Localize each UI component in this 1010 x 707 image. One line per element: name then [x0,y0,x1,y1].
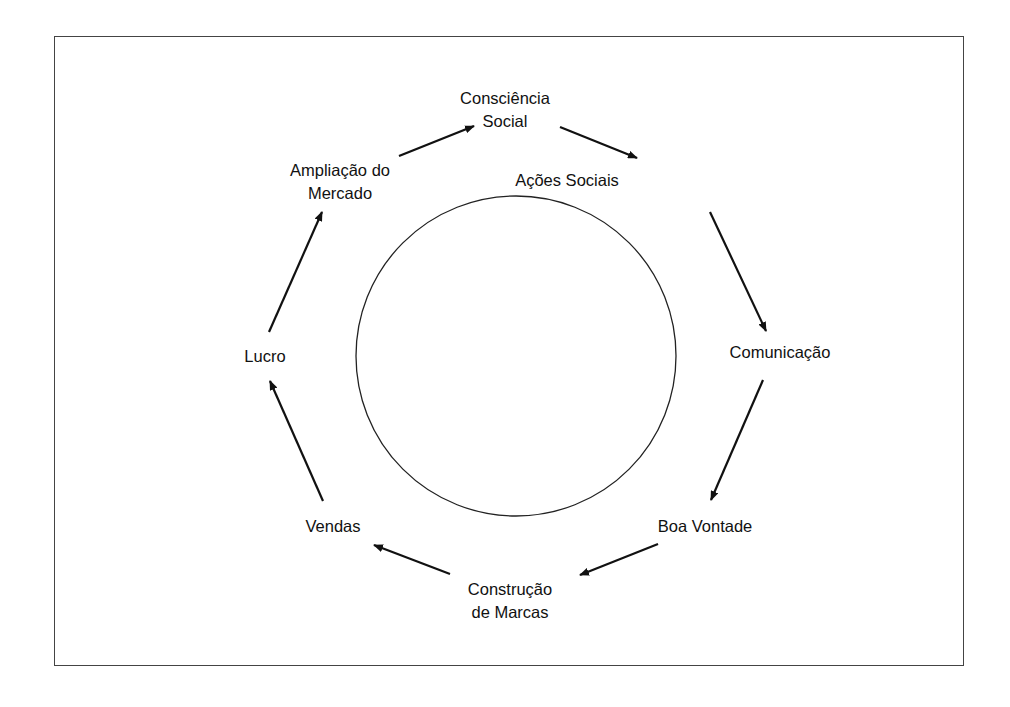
node-consciencia-social: Consciência Social [460,87,550,133]
node-label-line: Ações Sociais [515,169,619,192]
node-label-line: Construção [468,578,552,601]
node-label-line: de Marcas [468,601,552,624]
node-label-line: Comunicação [730,341,831,364]
node-boa-vontade: Boa Vontade [658,515,753,538]
arrow-lucro-to-ampliacao [269,212,322,332]
arrow-comunicacao-to-boa-vontade [711,380,763,500]
arrow-vendas-to-lucro [270,381,323,501]
node-lucro: Lucro [244,345,285,368]
node-label-line: Social [460,110,550,133]
node-label-line: Lucro [244,345,285,368]
node-label-line: Vendas [305,515,360,538]
arrow-consciencia-to-acoes [560,127,637,158]
cycle-diagram: Consciência Social Ações Sociais Comunic… [0,0,1010,707]
node-acoes-sociais: Ações Sociais [515,169,619,192]
node-label-line: Ampliação do [290,159,390,182]
arrow-boa-vontade-to-construcao [580,544,658,575]
node-construcao-de-marcas: Construção de Marcas [468,578,552,624]
node-label-line: Consciência [460,87,550,110]
arrow-acoes-to-comunicacao [710,212,766,331]
node-vendas: Vendas [305,515,360,538]
node-label-line: Mercado [290,182,390,205]
center-circle [356,196,676,516]
node-comunicacao: Comunicação [730,341,831,364]
node-ampliacao-do-mercado: Ampliação do Mercado [290,159,390,205]
node-label-line: Boa Vontade [658,515,753,538]
arrow-construcao-to-vendas [374,545,450,574]
